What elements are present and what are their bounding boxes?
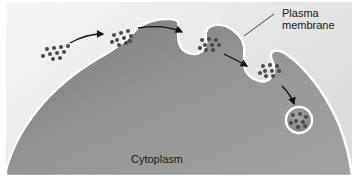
endocytosis-diagram: Plasma membrane Cytoplasm [6,2,352,176]
plasma-membrane-label: Plasma membrane [282,7,335,31]
plasma-membrane-label-line1: Plasma [282,7,335,19]
plasma-membrane-label-line2: membrane [282,19,335,31]
free-vesicle [286,107,312,133]
cytoplasm-label: Cytoplasm [131,153,183,165]
